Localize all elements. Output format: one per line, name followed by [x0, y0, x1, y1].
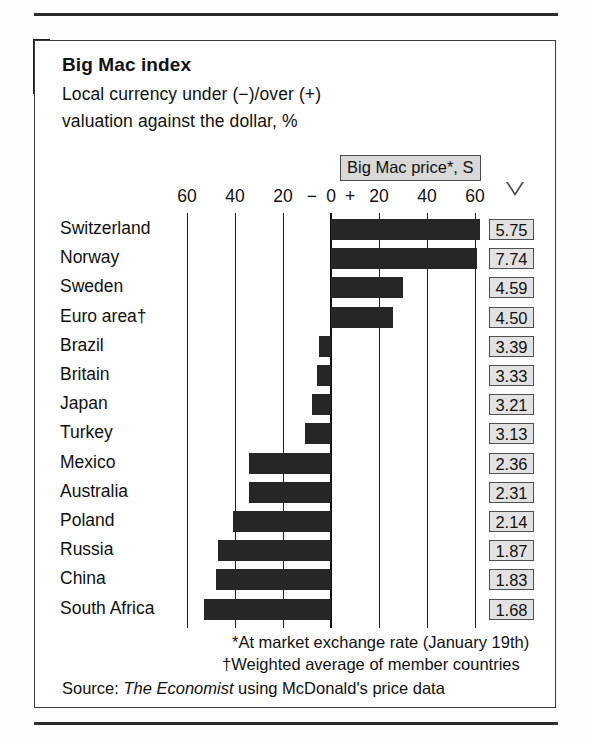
source-line: Source: The Economist using McDonald's p… — [62, 679, 445, 698]
price-box: 1.68 — [489, 599, 534, 620]
country-label: Euro area† — [60, 306, 147, 327]
value-bar — [249, 453, 331, 474]
zero-axis-line — [330, 213, 332, 628]
footnote-weighted-average: †Weighted average of member countries — [222, 655, 520, 674]
price-box: 1.83 — [489, 569, 534, 590]
country-label: South Africa — [60, 598, 154, 619]
price-box: 5.75 — [489, 219, 534, 240]
value-bar — [331, 219, 480, 240]
value-bar — [305, 423, 331, 444]
country-label: Mexico — [60, 452, 115, 473]
country-label: Japan — [60, 393, 108, 414]
country-label: Poland — [60, 510, 115, 531]
axis-tick-label: 60 — [167, 186, 207, 207]
value-bar — [331, 277, 403, 298]
axis-tick-label: 60 — [455, 186, 495, 207]
value-bar — [331, 248, 477, 269]
country-label: China — [60, 568, 106, 589]
gridline — [187, 213, 188, 628]
value-bar — [319, 336, 331, 357]
value-bar — [331, 307, 393, 328]
value-bar — [312, 394, 331, 415]
axis-tick-label: 20 — [359, 186, 399, 207]
source-prefix: Source: — [62, 679, 123, 697]
axis-tick-label: 40 — [407, 186, 447, 207]
gridline — [475, 213, 476, 628]
price-box: 1.87 — [489, 540, 534, 561]
price-box: 2.31 — [489, 482, 534, 503]
country-label: Turkey — [60, 422, 113, 443]
axis-tick-label: 40 — [215, 186, 255, 207]
bar-chart-plot: 604020−0+204060Switzerland5.75Norway7.74… — [0, 0, 592, 742]
country-label: Australia — [60, 481, 128, 502]
source-publication: The Economist — [123, 679, 233, 697]
value-bar — [218, 540, 331, 561]
gridline — [427, 213, 428, 628]
value-bar — [216, 569, 331, 590]
country-label: Sweden — [60, 276, 123, 297]
price-box: 3.39 — [489, 336, 534, 357]
price-box: 4.59 — [489, 277, 534, 298]
country-label: Russia — [60, 539, 114, 560]
country-label: Brazil — [60, 335, 104, 356]
price-box: 7.74 — [489, 248, 534, 269]
price-box: 3.21 — [489, 394, 534, 415]
country-label: Britain — [60, 364, 110, 385]
footnote-exchange-rate: *At market exchange rate (January 19th) — [232, 633, 529, 652]
gridline — [379, 213, 380, 628]
source-suffix: using McDonald's price data — [234, 679, 445, 697]
value-bar — [233, 511, 331, 532]
gridline — [235, 213, 236, 628]
country-label: Norway — [60, 247, 119, 268]
value-bar — [204, 599, 331, 620]
country-label: Switzerland — [60, 218, 150, 239]
gridline — [283, 213, 284, 628]
value-bar — [249, 482, 331, 503]
price-box: 2.14 — [489, 511, 534, 532]
price-box: 3.33 — [489, 365, 534, 386]
price-box: 3.13 — [489, 423, 534, 444]
value-bar — [317, 365, 331, 386]
price-box: 4.50 — [489, 307, 534, 328]
price-box: 2.36 — [489, 453, 534, 474]
